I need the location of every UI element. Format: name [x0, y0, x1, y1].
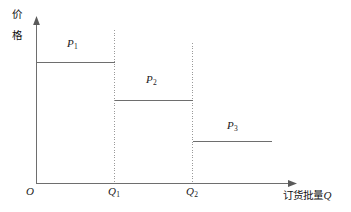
x-axis-title: 订货批量 Q — [283, 190, 331, 201]
chart-plot-area — [0, 0, 351, 212]
price-label-p2: P2 — [146, 74, 156, 85]
price-label-p3-sub: 3 — [234, 124, 238, 133]
x-tick-label-q2-sub: 2 — [194, 190, 198, 199]
price-label-p1: P1 — [67, 38, 77, 49]
x-axis-arrow-icon — [288, 180, 297, 187]
x-axis-title-symbol: Q — [324, 190, 332, 201]
y-axis-title-char-2: 格 — [12, 30, 22, 41]
origin-label: O — [26, 186, 34, 197]
x-tick-label-q1-sub: 1 — [116, 190, 120, 199]
x-tick-label-q1-base: Q — [108, 185, 116, 197]
price-label-p2-base: P — [146, 73, 153, 85]
y-axis-title: 价 格 — [12, 9, 22, 40]
x-tick-label-q2-base: Q — [186, 185, 194, 197]
price-label-p1-sub: 1 — [74, 42, 78, 51]
price-label-p1-base: P — [67, 37, 74, 49]
price-label-p3-base: P — [227, 119, 234, 131]
y-axis-arrow-icon — [33, 16, 40, 25]
price-label-p3: P3 — [227, 120, 237, 131]
price-label-p2-sub: 2 — [153, 78, 157, 87]
x-tick-label-q1: Q1 — [108, 186, 120, 197]
y-axis-title-char-1: 价 — [12, 9, 22, 20]
x-tick-label-q2: Q2 — [186, 186, 198, 197]
price-quantity-step-chart: 价 格 订货批量 Q O Q1 Q2 P1 P2 P3 — [0, 0, 351, 212]
x-axis-title-text: 订货批量 — [283, 190, 323, 201]
